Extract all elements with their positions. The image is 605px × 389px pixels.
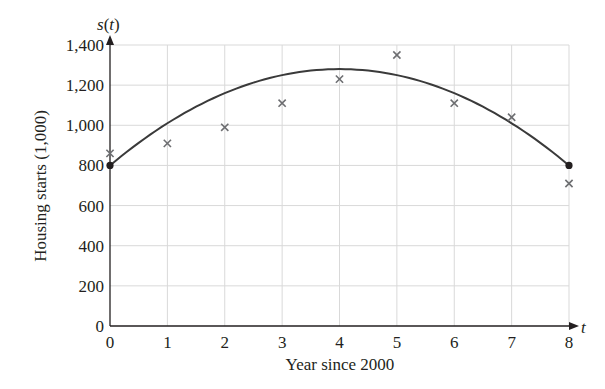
y-axis-title: Housing starts (1,000) [31, 110, 50, 262]
x-tick-label: 4 [335, 333, 344, 352]
x-tick-label: 8 [565, 333, 574, 352]
x-tick-labels: 012345678 [106, 333, 574, 352]
x-tick-label: 0 [106, 333, 115, 352]
y-tick-label: 400 [79, 237, 105, 256]
chart-canvas: 012345678 02004006008001,0001,2001,400 t… [0, 0, 605, 389]
y-tick-label: 800 [79, 156, 105, 175]
y-axis-variable-label: s(t) [97, 15, 120, 34]
x-tick-label: 6 [450, 333, 459, 352]
y-axis-arrow-icon [106, 35, 114, 45]
y-tick-labels: 02004006008001,0001,2001,400 [66, 36, 104, 336]
x-tick-label: 7 [507, 333, 516, 352]
curve-endpoint-dot [565, 162, 572, 169]
y-tick-label: 1,200 [66, 76, 104, 95]
curve-endpoint-dot [106, 162, 113, 169]
x-tick-label: 1 [163, 333, 172, 352]
x-tick-label: 2 [221, 333, 230, 352]
x-tick-label: 5 [393, 333, 402, 352]
y-tick-label: 1,400 [66, 36, 104, 55]
y-tick-label: 1,000 [66, 116, 104, 135]
y-tick-label: 600 [79, 197, 105, 216]
grid-lines [110, 45, 569, 326]
x-axis-title: Year since 2000 [286, 355, 395, 374]
y-tick-label: 200 [79, 277, 105, 296]
y-tick-label: 0 [96, 317, 105, 336]
x-tick-label: 3 [278, 333, 287, 352]
x-axis-arrow-icon [569, 322, 579, 330]
x-axis-variable-label: t [581, 318, 587, 337]
